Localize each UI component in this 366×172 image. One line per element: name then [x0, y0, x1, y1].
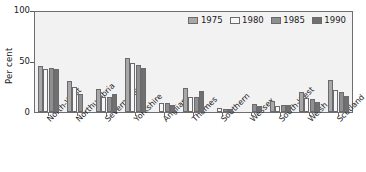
bar [199, 91, 204, 112]
bar [170, 105, 175, 112]
plot-area: 1975198019851990 [34, 11, 353, 113]
bar [315, 102, 320, 112]
legend-item: 1990 [312, 16, 346, 25]
legend: 1975198019851990 [186, 15, 348, 26]
y-tick: 50 [0, 57, 30, 67]
bar [141, 68, 146, 112]
bar [344, 96, 349, 112]
bar [49, 68, 54, 112]
bar [101, 97, 106, 112]
bar-group [38, 12, 59, 112]
bar [72, 87, 77, 113]
legend-item: 1985 [271, 16, 305, 25]
bar-group [328, 12, 349, 112]
bar [275, 106, 280, 112]
bar-group [183, 12, 204, 112]
bar [333, 90, 338, 112]
y-tick: 100 [0, 6, 30, 16]
legend-item: 1980 [230, 16, 264, 25]
bar [328, 80, 333, 112]
legend-swatch [271, 17, 281, 24]
legend-swatch [312, 17, 322, 24]
y-tick: 0 [0, 108, 30, 118]
bar [112, 94, 117, 112]
legend-label: 1980 [242, 16, 264, 25]
legend-label: 1985 [283, 16, 305, 25]
bar [270, 101, 275, 112]
bar-group [67, 12, 88, 112]
bar [165, 103, 170, 112]
bar [54, 69, 59, 112]
bars-container [35, 12, 352, 112]
legend-label: 1975 [201, 16, 223, 25]
bar [183, 88, 188, 112]
bar [67, 81, 72, 112]
bar [223, 109, 228, 112]
bar [125, 58, 130, 112]
bar [217, 108, 222, 112]
bar [252, 104, 257, 112]
bar [78, 94, 83, 112]
bar [188, 97, 193, 112]
bar-group [96, 12, 117, 112]
bar [107, 97, 112, 112]
bar [257, 106, 262, 112]
bar [194, 97, 199, 112]
bar [43, 69, 48, 112]
bar [281, 105, 286, 112]
bar [136, 65, 141, 112]
bar [286, 105, 291, 112]
y-tick-label: 100 [8, 6, 30, 15]
bar [310, 99, 315, 112]
bar [299, 92, 304, 112]
bar [304, 98, 309, 112]
legend-swatch [230, 17, 240, 24]
bar [159, 103, 164, 112]
bar-group [125, 12, 146, 112]
legend-item: 1975 [188, 16, 222, 25]
legend-swatch [188, 17, 198, 24]
bar [38, 66, 43, 112]
bar [96, 89, 101, 112]
legend-label: 1990 [324, 16, 346, 25]
bar [130, 63, 135, 112]
bar-group [270, 12, 291, 112]
bar [228, 109, 233, 112]
bar [339, 92, 344, 112]
y-tick-label: 0 [8, 108, 30, 117]
y-tick-label: 50 [8, 57, 30, 66]
